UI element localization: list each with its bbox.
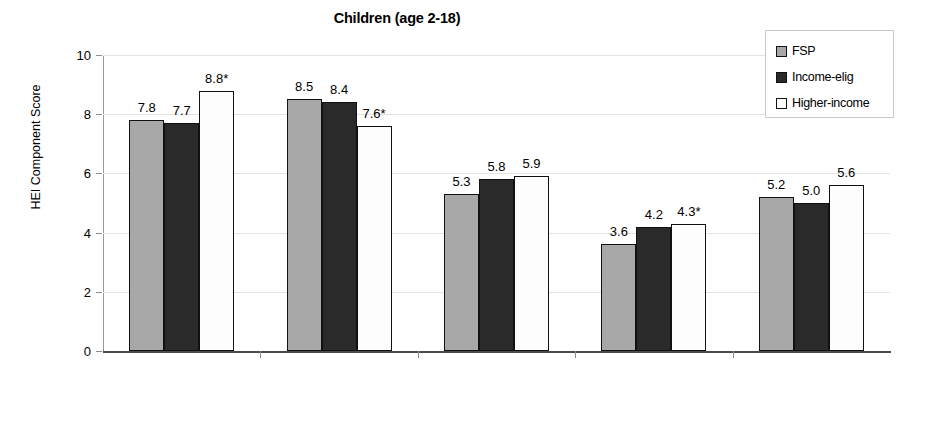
legend-item: FSP [776,38,893,64]
bar-high [357,126,392,351]
group-separator-tick [575,351,576,358]
group-separator-tick [733,351,734,358]
legend-item-label: Higher-income [792,97,869,110]
bar-value-label: 8.4 [330,83,348,96]
bar-value-label: 5.9 [522,157,540,170]
chart-title-text: Children (age 2-18) [334,10,461,26]
legend-swatch-icon [776,46,787,57]
bar-value-label: 8.5 [295,80,313,93]
y-axis-tick [96,173,102,174]
bar-value-label: 7.7 [173,104,191,117]
y-axis-tick-label: 10 [77,49,91,62]
y-axis-title: HEI Component Score [29,37,43,257]
legend-item: Income-elig [776,64,893,90]
bar-value-label: 7.6* [363,107,386,120]
bar-value-label: 4.2 [645,208,663,221]
group-separator-tick [418,351,419,358]
bar-inc [636,227,671,351]
y-axis-tick [96,292,102,293]
bar-value-label: 8.8* [205,72,228,85]
bar-value-label: 4.3* [677,205,700,218]
bar-high [829,185,864,351]
bar-fsp [444,194,479,351]
y-axis-tick-label: 0 [84,345,91,358]
bar-inc [479,179,514,351]
chart-title: Children (age 2-18) [0,10,940,26]
y-axis-tick [96,351,102,352]
bar-chart: Children (age 2-18) HEI Component Score … [0,0,940,422]
legend-swatch-icon [776,72,787,83]
bar-value-label: 7.8 [138,101,156,114]
chart-legend: FSPIncome-eligHigher-income [765,30,894,118]
bar-fsp [129,120,164,351]
legend-swatch-icon [776,98,787,109]
y-axis-tick [96,55,102,56]
bar-fsp [601,244,636,351]
bar-inc [322,102,357,351]
x-axis-line [103,351,891,353]
y-axis-tick [96,233,102,234]
bar-high [671,224,706,351]
bar-value-label: 5.0 [802,184,820,197]
bar-value-label: 3.6 [610,225,628,238]
y-axis-tick-label: 2 [84,285,91,298]
bar-value-label: 5.8 [487,160,505,173]
bar-high [199,91,234,351]
y-axis-tick-label: 8 [84,108,91,121]
bar-value-label: 5.2 [767,178,785,191]
bar-fsp [287,99,322,351]
bar-high [514,176,549,351]
bar-inc [794,203,829,351]
y-axis-tick [96,114,102,115]
bar-value-label: 5.3 [452,175,470,188]
bar-inc [164,123,199,351]
y-axis-tick-label: 6 [84,167,91,180]
legend-item-label: FSP [792,45,815,58]
bar-fsp [759,197,794,351]
legend-item: Higher-income [776,90,893,116]
group-separator-tick [260,351,261,358]
bar-value-label: 5.6 [837,166,855,179]
legend-item-label: Income-elig [792,71,853,84]
y-axis-tick-label: 4 [84,226,91,239]
